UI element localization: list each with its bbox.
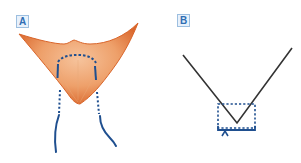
up-arrow-icon (222, 131, 228, 136)
v-shape-line (183, 48, 292, 123)
panel-a: A (0, 0, 150, 163)
panel-label-b: B (177, 14, 190, 27)
dashed-region-box (218, 104, 255, 128)
left-dotted-extension (59, 90, 60, 114)
panel-label-a: A (16, 15, 29, 28)
left-solid-curve (55, 115, 59, 152)
right-solid-curve (100, 116, 116, 146)
left-incision-line (58, 64, 59, 78)
v-line-illustration (150, 0, 301, 163)
panel-b: B (150, 0, 301, 163)
right-incision-line (95, 66, 96, 80)
right-dotted-extension (97, 92, 99, 114)
tissue-flap-shape (19, 23, 138, 104)
